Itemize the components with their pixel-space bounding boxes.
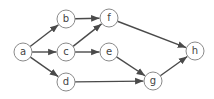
nodes-group: abcdfegh	[14, 9, 204, 91]
node-label: a	[20, 46, 26, 57]
node-label: f	[107, 12, 111, 23]
node-label: b	[63, 13, 69, 24]
edge-c-f	[73, 24, 101, 47]
node-d: d	[57, 73, 75, 91]
edge-e-g	[117, 57, 146, 76]
node-label: d	[63, 76, 69, 87]
node-f: f	[100, 9, 118, 27]
node-label: g	[150, 75, 156, 86]
edge-a-b	[30, 25, 58, 47]
edge-f-h	[117, 21, 186, 47]
edge-d-g	[75, 81, 144, 82]
node-label: h	[192, 45, 198, 56]
edge-g-h	[160, 57, 187, 76]
edge-b-f	[75, 18, 100, 19]
node-h: h	[186, 42, 204, 60]
node-c: c	[57, 43, 75, 61]
node-label: c	[63, 46, 69, 57]
node-e: e	[100, 43, 118, 61]
node-b: b	[57, 10, 75, 28]
edge-a-d	[30, 57, 58, 76]
node-g: g	[144, 72, 162, 90]
node-a: a	[14, 43, 32, 61]
directed-graph: abcdfegh	[0, 0, 214, 99]
node-label: e	[106, 46, 112, 57]
